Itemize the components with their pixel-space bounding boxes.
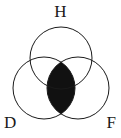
circle-label-h: H xyxy=(0,3,121,20)
circle-label-d: D xyxy=(4,114,16,131)
venn-diagram-figure: H D F xyxy=(0,0,121,138)
circle-label-f: F xyxy=(107,114,116,131)
